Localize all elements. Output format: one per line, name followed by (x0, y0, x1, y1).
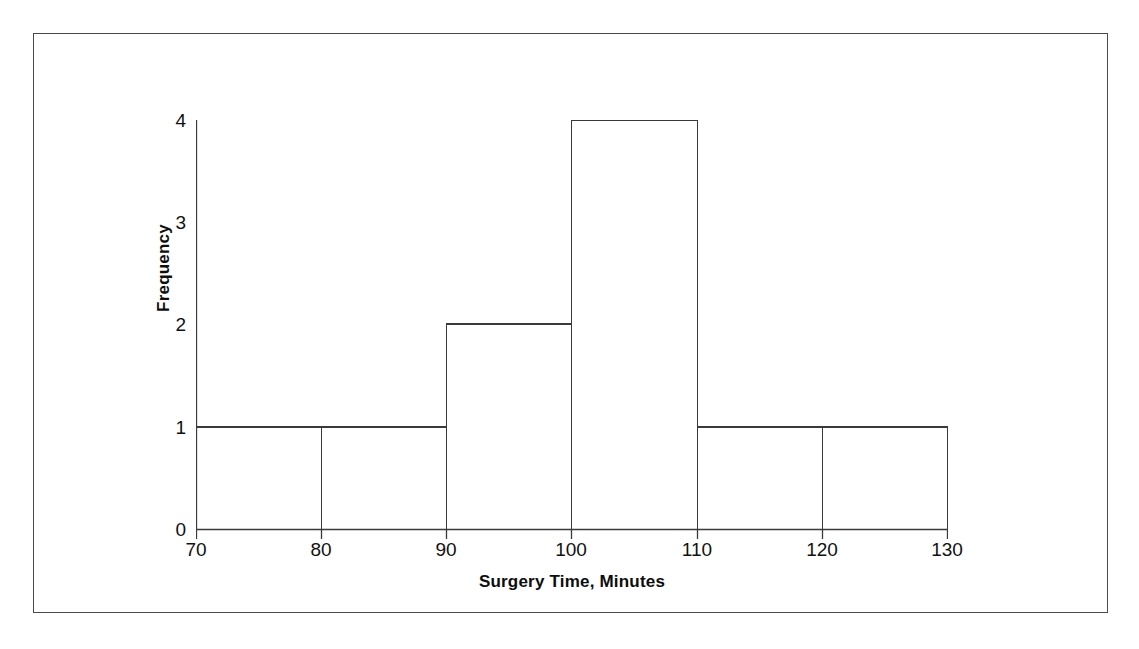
y-axis-title: Frequency (154, 208, 174, 328)
y-tick-label-1: 1 (162, 418, 186, 437)
x-tick-label-100: 100 (536, 540, 606, 559)
plot-area (196, 120, 948, 529)
x-tick-label-130: 130 (912, 540, 982, 559)
histogram-plot (196, 120, 948, 539)
x-tick-label-120: 120 (787, 540, 857, 559)
histogram-bars (197, 121, 948, 530)
histogram-figure: 4 3 2 1 0 (0, 0, 1139, 649)
x-tick-label-90: 90 (411, 540, 481, 559)
histogram-bar-80-90 (322, 427, 447, 530)
histogram-bar-120-130 (823, 427, 948, 530)
histogram-bar-70-80 (197, 427, 322, 530)
y-tick-label-4: 4 (162, 111, 186, 130)
x-axis-tick-labels: 70 80 90 100 110 120 130 (0, 540, 1139, 568)
histogram-bar-90-100 (447, 324, 572, 530)
histogram-bar-100-110 (572, 121, 698, 530)
y-tick-label-0: 0 (162, 520, 186, 539)
x-tick-label-70: 70 (161, 540, 231, 559)
x-tick-label-80: 80 (286, 540, 356, 559)
x-axis-ticks (197, 530, 948, 540)
histogram-bar-110-120 (698, 427, 823, 530)
x-tick-label-110: 110 (662, 540, 732, 559)
x-axis-title: Surgery Time, Minutes (196, 572, 948, 592)
